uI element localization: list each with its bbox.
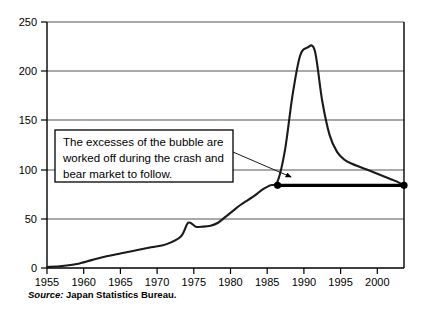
y-tick-label-100: 100 bbox=[19, 164, 37, 176]
bubble-excess-callout: The excesses of the bubble are worked of… bbox=[55, 130, 233, 182]
callout-line-1: The excesses of the bubble are bbox=[63, 136, 223, 148]
source-text: Japan Statistics Bureau. bbox=[66, 289, 176, 300]
x-tick-label-2000: 2000 bbox=[365, 276, 389, 288]
callout-line-3: bear market to follow. bbox=[63, 168, 172, 180]
source-note: Source: Japan Statistics Bureau. bbox=[28, 289, 176, 300]
x-tick-label-1975: 1975 bbox=[182, 276, 206, 288]
x-tick-label-1985: 1985 bbox=[255, 276, 279, 288]
y-tick-label-200: 200 bbox=[19, 65, 37, 77]
land-price-index-chart: 250 200 150 100 50 0 1955 1960 1965 1970… bbox=[0, 0, 426, 318]
x-tick-label-1970: 1970 bbox=[145, 276, 169, 288]
x-tick-label-1990: 1990 bbox=[292, 276, 316, 288]
callout-line-2: worked off during the crash and bbox=[62, 152, 224, 164]
y-tick-label-0: 0 bbox=[31, 262, 37, 274]
y-tick-label-50: 50 bbox=[25, 213, 37, 225]
x-tick-label-1955: 1955 bbox=[35, 276, 59, 288]
source-label: Source: bbox=[28, 289, 63, 300]
x-tick-label-1960: 1960 bbox=[71, 276, 95, 288]
y-tick-label-150: 150 bbox=[19, 114, 37, 126]
reference-marker-start bbox=[274, 182, 281, 189]
x-tick-label-1980: 1980 bbox=[218, 276, 242, 288]
x-tick-label-1995: 1995 bbox=[328, 276, 352, 288]
y-tick-label-250: 250 bbox=[19, 16, 37, 28]
reference-marker-end bbox=[400, 182, 407, 189]
x-tick-label-1965: 1965 bbox=[108, 276, 132, 288]
